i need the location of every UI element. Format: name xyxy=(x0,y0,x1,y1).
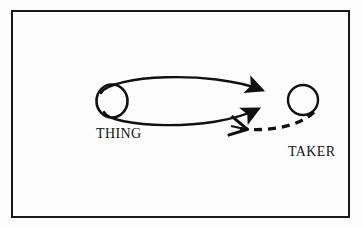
diagram-canvas xyxy=(0,0,363,228)
edge-thing-to-taker-bottom xyxy=(104,109,258,125)
screenshot-root: THING TAKER xyxy=(0,0,363,228)
node-thing-circle xyxy=(97,85,128,118)
node-label-thing: THING xyxy=(96,127,142,141)
node-label-taker: TAKER xyxy=(288,145,336,159)
node-taker-circle xyxy=(288,85,318,115)
